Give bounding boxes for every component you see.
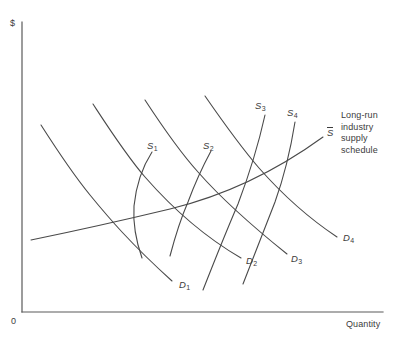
curve-label-d4: D4: [343, 232, 354, 244]
demand-curve-d4: [205, 96, 337, 237]
curve-label-s4: S4: [287, 107, 297, 119]
x-axis-label: Quantity: [346, 319, 380, 330]
curve-label-d3: D3: [291, 253, 302, 265]
curve-label-s3: S3: [255, 100, 265, 112]
origin-label: 0: [11, 316, 16, 327]
curve-label-d2: D2: [246, 255, 257, 267]
supply-demand-figure: $ 0 Quantity S1 S2 S3 S4 S D1 D2 D3 D4 L…: [0, 0, 398, 345]
long-run-supply-annotation: Long-run industry supply schedule: [341, 110, 378, 156]
chart-canvas: [0, 0, 398, 345]
curve-label-long-run-supply: S: [327, 127, 333, 138]
demand-curve-d2: [93, 104, 241, 258]
curve-label-s2: S2: [203, 140, 213, 152]
curve-label-s1: S1: [147, 140, 157, 152]
y-axis-label: $: [10, 18, 15, 29]
curve-label-d1: D1: [179, 279, 190, 291]
demand-curve-d3: [145, 100, 287, 254]
supply-curve-s1: [134, 152, 152, 258]
